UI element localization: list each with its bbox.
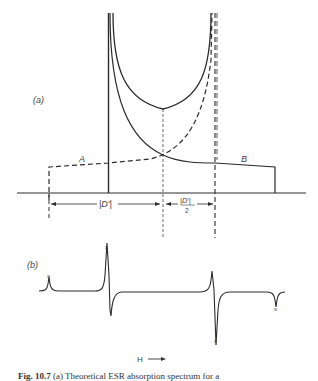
axis-label-h: H xyxy=(137,355,143,364)
esr-figure: (a) A B |D'| |D'| 2 x x x x (b) H xyxy=(0,0,318,381)
panel-b-label: (b) xyxy=(27,260,38,270)
panel-a xyxy=(17,13,306,238)
dim-left-label: |D'| xyxy=(99,199,112,209)
peak-markers: x x x x xyxy=(47,244,277,344)
marker-x: x xyxy=(105,244,108,250)
marker-x: x xyxy=(47,273,50,279)
figure-caption: Fig. 10.7 (a) Theoretical ESR absorption… xyxy=(18,371,318,381)
curve-a-label: A xyxy=(78,154,85,164)
marker-x: x xyxy=(274,306,277,312)
curve-b-label: B xyxy=(241,154,247,164)
derivative-spectrum xyxy=(39,243,285,345)
caption-text: (a) Theoretical ESR absorption spectrum … xyxy=(53,371,219,381)
right-arrow-icon xyxy=(148,357,166,361)
curve-b xyxy=(110,13,275,193)
total-absorption-curve xyxy=(113,13,211,109)
dim-right-den: 2 xyxy=(185,207,189,214)
curve-a xyxy=(49,13,212,200)
panel-a-label: (a) xyxy=(33,95,44,105)
dim-right-num: |D'| xyxy=(180,196,191,205)
caption-prefix: Fig. 10.7 xyxy=(18,371,51,381)
marker-x: x xyxy=(214,338,217,344)
panel-b xyxy=(39,243,285,345)
